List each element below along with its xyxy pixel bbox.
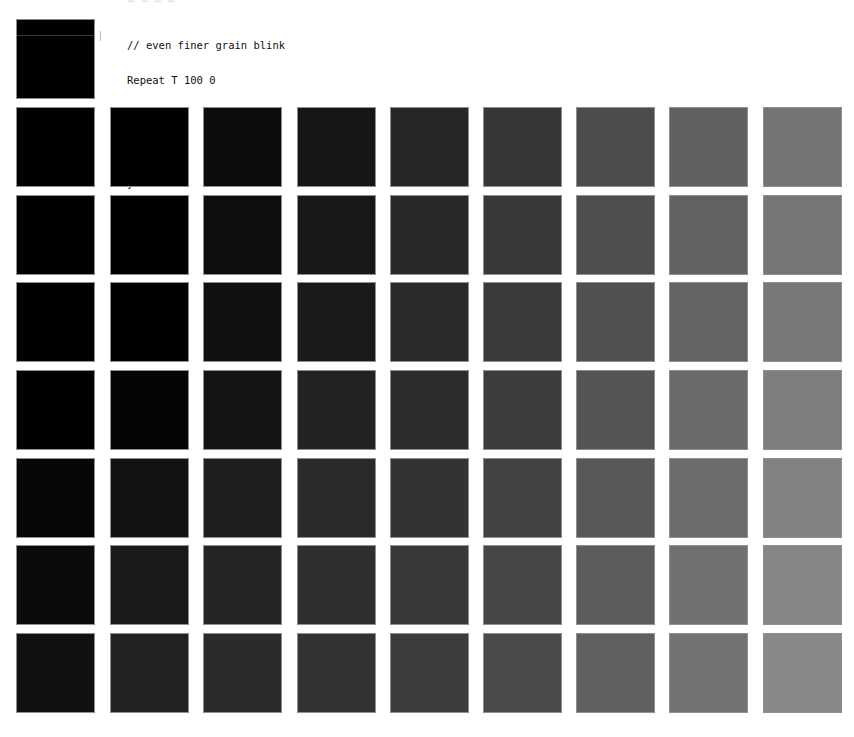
- gray-swatch-r5-c8: [669, 458, 748, 538]
- gray-swatch-r4-c6: [483, 370, 562, 450]
- code-line-comment: // even finer grain blink: [127, 40, 285, 52]
- gray-swatch-r3-c2: [110, 282, 189, 362]
- code-line-repeat: Repeat T 100 0: [127, 75, 285, 87]
- gray-swatch-r4-c4: [297, 370, 376, 450]
- gray-swatch-r2-c2: [110, 195, 189, 275]
- gray-swatch-r2-c7: [576, 195, 655, 275]
- gray-swatch-r2-c6: [483, 195, 562, 275]
- gray-swatch-r7-c8: [669, 633, 748, 713]
- gray-swatch-r4-c9: [763, 370, 842, 450]
- gray-swatch-r5-c7: [576, 458, 655, 538]
- gray-swatch-r7-c7: [576, 633, 655, 713]
- gray-swatch-r2-c4: [297, 195, 376, 275]
- gray-swatch-r5-c9: [763, 458, 842, 538]
- gray-swatch-r4-c8: [669, 370, 748, 450]
- gray-swatch-r4-c5: [390, 370, 469, 450]
- gray-swatch-r2-c3: [203, 195, 282, 275]
- gray-swatch-r3-c4: [297, 282, 376, 362]
- gray-swatch-r5-c5: [390, 458, 469, 538]
- gray-swatch-r2-c5: [390, 195, 469, 275]
- gray-swatch-r7-c6: [483, 633, 562, 713]
- gray-swatch-r7-c1: [16, 633, 95, 713]
- gray-swatch-r5-c6: [483, 458, 562, 538]
- header-swatch-black: [16, 19, 95, 99]
- gray-swatch-r2-c1: [16, 195, 95, 275]
- scanline-artifact: [17, 35, 94, 36]
- gray-swatch-r6-c8: [669, 545, 748, 625]
- gray-swatch-r1-c1: [16, 107, 95, 187]
- gray-swatch-r6-c1: [16, 545, 95, 625]
- gray-swatch-r7-c3: [203, 633, 282, 713]
- gray-swatch-r5-c3: [203, 458, 282, 538]
- gray-swatch-r5-c1: [16, 458, 95, 538]
- gray-swatch-r1-c5: [390, 107, 469, 187]
- gray-swatch-r6-c7: [576, 545, 655, 625]
- gray-swatch-r6-c5: [390, 545, 469, 625]
- gray-swatch-r4-c3: [203, 370, 282, 450]
- clipped-top-text: … … … …: [128, 0, 288, 4]
- gray-swatch-r6-c2: [110, 545, 189, 625]
- gray-swatch-r1-c3: [203, 107, 282, 187]
- gray-swatch-r4-c2: [110, 370, 189, 450]
- gray-swatch-r1-c6: [483, 107, 562, 187]
- gray-swatch-r2-c8: [669, 195, 748, 275]
- gray-swatch-r3-c3: [203, 282, 282, 362]
- gray-swatch-r6-c4: [297, 545, 376, 625]
- gray-swatch-r3-c8: [669, 282, 748, 362]
- gray-swatch-r1-c4: [297, 107, 376, 187]
- gray-swatch-r1-c2: [110, 107, 189, 187]
- gray-swatch-r7-c5: [390, 633, 469, 713]
- gray-swatch-r7-c4: [297, 633, 376, 713]
- gray-swatch-r3-c7: [576, 282, 655, 362]
- gray-swatch-r3-c5: [390, 282, 469, 362]
- gray-swatch-r1-c7: [576, 107, 655, 187]
- gray-swatch-r5-c4: [297, 458, 376, 538]
- gray-swatch-r3-c9: [763, 282, 842, 362]
- gray-swatch-r1-c9: [763, 107, 842, 187]
- gray-swatch-r6-c9: [763, 545, 842, 625]
- gray-swatch-r6-c6: [483, 545, 562, 625]
- gray-swatch-r3-c1: [16, 282, 95, 362]
- gray-swatch-r4-c1: [16, 370, 95, 450]
- gray-swatch-r3-c6: [483, 282, 562, 362]
- gray-swatch-r7-c2: [110, 633, 189, 713]
- text-cursor-icon: [100, 31, 101, 41]
- gray-swatch-r1-c8: [669, 107, 748, 187]
- gray-swatch-r2-c9: [763, 195, 842, 275]
- gray-swatch-r7-c9: [763, 633, 842, 713]
- gray-swatch-r4-c7: [576, 370, 655, 450]
- gray-swatch-r6-c3: [203, 545, 282, 625]
- gray-swatch-r5-c2: [110, 458, 189, 538]
